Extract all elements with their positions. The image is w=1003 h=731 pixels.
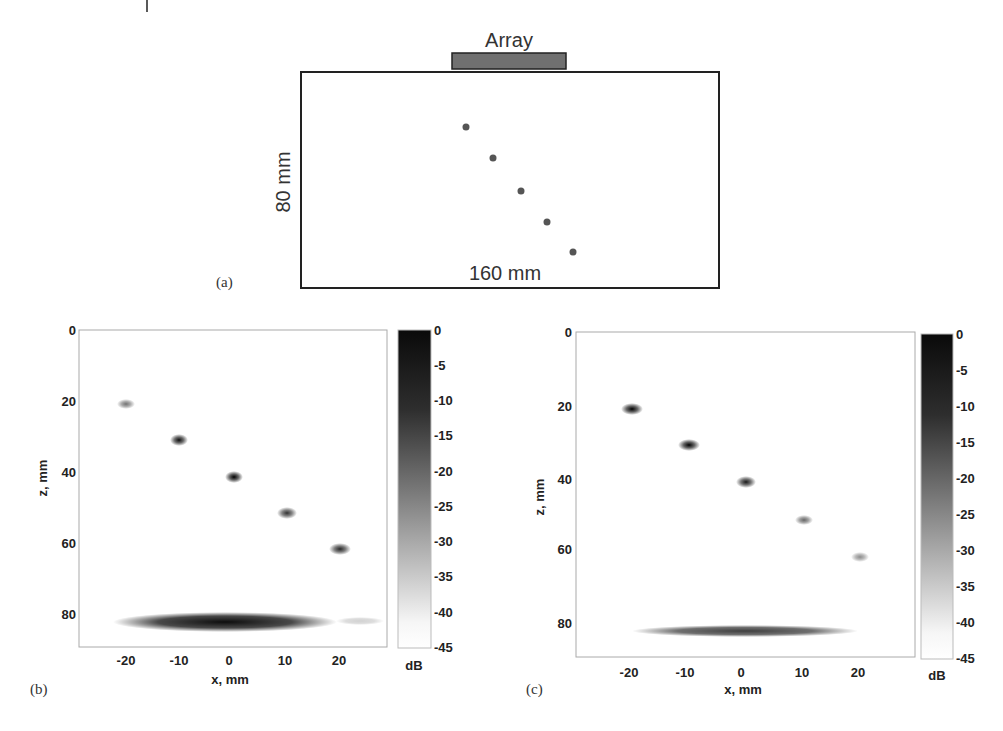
svg-text:60: 60 [558,542,572,557]
svg-text:-20: -20 [620,665,639,680]
svg-text:-15: -15 [956,435,975,450]
y-ticks-b: 0 20 40 60 80 [62,323,76,622]
svg-text:-5: -5 [956,363,968,378]
svg-text:0: 0 [737,665,744,680]
panel-label-c: (c) [526,681,543,698]
svg-text:-35: -35 [956,579,975,594]
reflector-tail-b [336,617,384,625]
colorbar-label-b: dB [405,658,422,673]
svg-text:40: 40 [558,472,572,487]
svg-text:-5: -5 [434,358,446,373]
bottom-reflector-b [113,612,337,632]
svg-text:-40: -40 [956,615,975,630]
svg-text:20: 20 [558,399,572,414]
svg-text:10: 10 [795,665,809,680]
svg-text:-40: -40 [434,605,453,620]
svg-text:0: 0 [69,323,76,338]
x-ticks-b: -20 -10 0 10 20 [117,653,347,668]
svg-text:-25: -25 [956,507,975,522]
colorbar-c [921,334,953,659]
svg-text:-30: -30 [434,534,453,549]
panel-b: -20 -10 0 10 20 0 20 40 60 80 x, mm z, m… [30,323,453,698]
svg-text:0: 0 [225,653,232,668]
scatter-points [463,124,577,256]
svg-text:0: 0 [565,325,572,340]
plot-area-b [79,330,387,647]
colorbar-ticks-b: 0 -5 -10 -15 -20 -25 -30 -35 -40 -45 [434,323,453,655]
x-axis-label-c: x, mm [724,682,762,697]
svg-text:10: 10 [278,653,292,668]
svg-text:-20: -20 [117,653,136,668]
colorbar-label-c: dB [928,668,945,683]
svg-text:60: 60 [62,536,76,551]
height-label: 80 mm [272,151,294,212]
medium-box [301,72,719,288]
svg-text:40: 40 [62,465,76,480]
panel-label-a: (a) [216,274,233,291]
svg-text:-20: -20 [956,471,975,486]
svg-text:-35: -35 [434,569,453,584]
x-ticks-c: -20 -10 0 10 20 [620,665,866,680]
svg-text:-10: -10 [956,399,975,414]
figure: Array 160 mm 80 mm (a) -20 -10 0 1 [0,0,1003,731]
x-axis-label-b: x, mm [211,672,249,687]
panel-c: -20 -10 0 10 20 0 20 40 60 80 x, mm z, m… [526,325,975,698]
panel-label-b: (b) [30,681,48,698]
panel-a: Array 160 mm 80 mm (a) [216,29,719,291]
svg-text:20: 20 [851,665,865,680]
svg-text:-25: -25 [434,499,453,514]
y-ticks-c: 0 20 40 60 80 [558,325,572,631]
colorbar-ticks-c: 0 -5 -10 -15 -20 -25 -30 -35 -40 -45 [956,327,975,666]
svg-text:80: 80 [558,616,572,631]
svg-text:-10: -10 [170,653,189,668]
svg-text:-20: -20 [434,464,453,479]
svg-text:80: 80 [62,607,76,622]
array-bar [452,53,566,69]
svg-text:0: 0 [956,327,963,342]
bottom-reflector-c [632,625,858,637]
svg-text:0: 0 [434,323,441,338]
svg-text:-15: -15 [434,428,453,443]
svg-text:-45: -45 [956,651,975,666]
y-axis-label-c: z, mm [532,479,547,516]
svg-text:-30: -30 [956,543,975,558]
y-axis-label-b: z, mm [35,460,50,497]
colorbar-b [398,330,431,648]
svg-text:-45: -45 [434,640,453,655]
svg-text:-10: -10 [676,665,695,680]
width-label: 160 mm [469,262,541,284]
svg-text:-10: -10 [434,393,453,408]
array-label: Array [485,29,533,51]
plot-area-c [576,332,915,657]
svg-text:20: 20 [62,394,76,409]
svg-text:20: 20 [332,653,346,668]
